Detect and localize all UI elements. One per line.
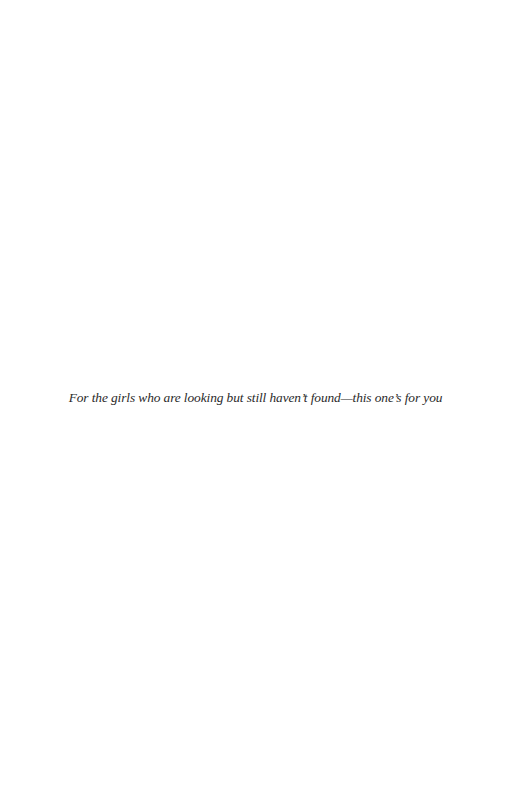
dedication-text: For the girls who are looking but still … <box>0 389 511 407</box>
book-page: For the girls who are looking but still … <box>0 0 511 792</box>
